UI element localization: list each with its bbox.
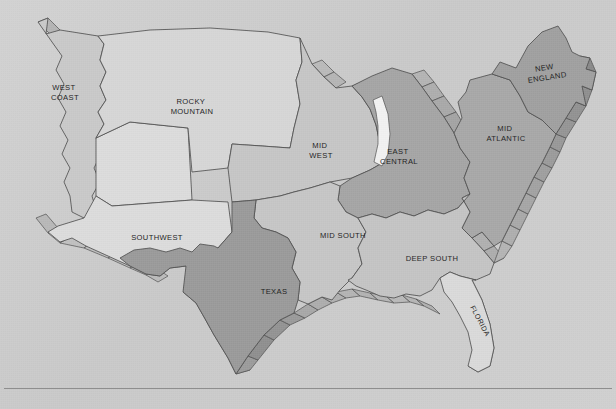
- region-southwest-north-block[interactable]: [96, 122, 192, 206]
- us-regions-map-figure: .rgn{stroke:#4f4f4f;stroke-width:.85;str…: [0, 0, 616, 409]
- bottom-rule-divider: [4, 388, 612, 389]
- map-svg: .rgn{stroke:#4f4f4f;stroke-width:.85;str…: [0, 0, 616, 409]
- region-florida[interactable]: [440, 272, 494, 372]
